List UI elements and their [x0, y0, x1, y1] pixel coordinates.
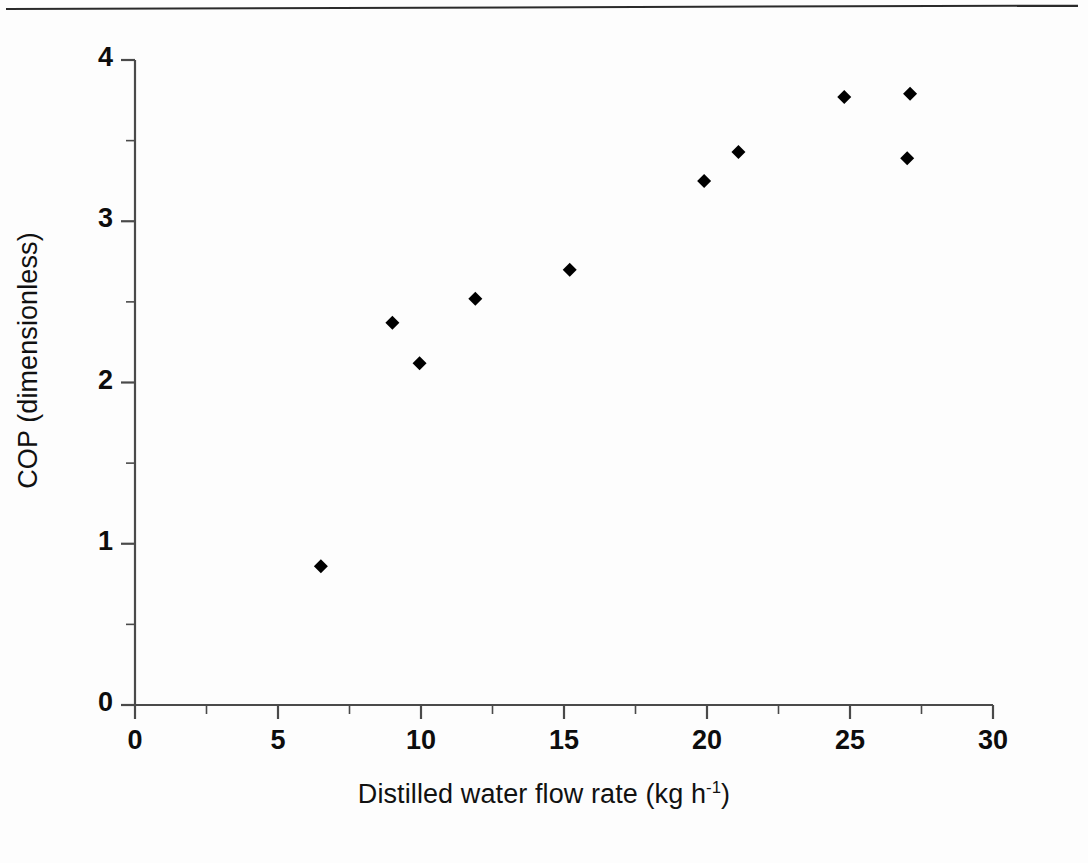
x-tick-label: 15 [524, 725, 604, 756]
data-point-marker [385, 316, 399, 330]
y-tick-label: 1 [53, 526, 113, 557]
x-tick-label: 30 [953, 725, 1033, 756]
y-tick-label: 0 [53, 687, 113, 718]
figure-canvas: 05101520253001234 COP (dimensionless) Di… [0, 0, 1088, 863]
x-axis-title: Distilled water flow rate (kg h-1) [0, 779, 1088, 810]
data-point-marker [697, 174, 711, 188]
x-axis-title-tail: ) [721, 779, 730, 809]
y-axis-title: COP (dimensionless) [13, 232, 44, 489]
data-points-group [314, 87, 917, 573]
data-point-marker [413, 356, 427, 370]
data-point-marker [468, 292, 482, 306]
axes-group [135, 60, 993, 705]
data-point-marker [563, 263, 577, 277]
x-tick-label: 25 [810, 725, 890, 756]
y-axis-title-container: COP (dimensionless) [0, 0, 56, 720]
data-point-marker [314, 559, 328, 573]
data-point-marker [900, 151, 914, 165]
data-point-marker [837, 90, 851, 104]
data-point-marker [903, 87, 917, 101]
y-tick-label: 4 [53, 42, 113, 73]
y-tick-label: 2 [53, 365, 113, 396]
x-tick-label: 0 [95, 725, 175, 756]
x-axis-title-main: Distilled water flow rate (kg h [358, 779, 706, 809]
x-tick-label: 20 [667, 725, 747, 756]
tick-marks-group [121, 60, 993, 719]
x-tick-label: 5 [238, 725, 318, 756]
y-tick-label: 3 [53, 203, 113, 234]
x-tick-label: 10 [381, 725, 461, 756]
x-axis-title-superscript: -1 [706, 778, 721, 797]
data-point-marker [731, 145, 745, 159]
